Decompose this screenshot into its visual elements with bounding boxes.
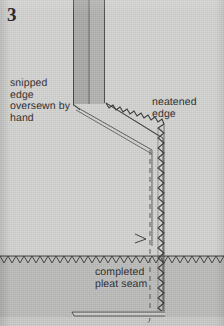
label-neatened-edge: neatened edge (152, 97, 197, 120)
step-number: 3 (7, 4, 17, 26)
bottom-fold-line (72, 311, 165, 317)
arrowhead-pointer (135, 234, 146, 243)
sewing-diagram-figure: 3 snipped edge oversewn by hand neatened… (0, 0, 224, 326)
snip-notch (73, 104, 80, 110)
label-snipped-edge: snipped edge oversewn by hand (10, 78, 70, 124)
label-completed-pleat-seam: completed pleat seam (95, 267, 147, 290)
below-hem-band (0, 317, 224, 326)
double-fold-line (73, 105, 152, 246)
fabric-strip (73, 0, 105, 104)
